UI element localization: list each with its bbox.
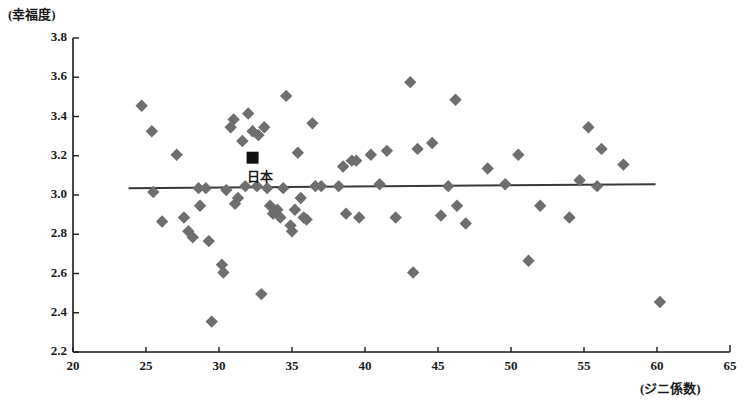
- data-point-marker: [534, 200, 546, 212]
- data-point-marker: [206, 315, 218, 327]
- data-point-marker: [306, 117, 318, 129]
- data-point-marker: [373, 178, 385, 190]
- y-tick-label: 2.6: [25, 265, 67, 281]
- data-point-marker: [435, 209, 447, 221]
- x-tick-label: 50: [491, 358, 531, 374]
- data-point-marker: [255, 288, 267, 300]
- y-tick-label: 2.4: [25, 304, 67, 320]
- data-point-marker: [295, 192, 307, 204]
- data-point-marker: [170, 149, 182, 161]
- data-point-marker: [220, 184, 232, 196]
- highlight-marker-japan: [247, 152, 259, 164]
- data-point-marker: [203, 235, 215, 247]
- annotation-marker: [247, 152, 259, 164]
- data-point-marker: [242, 107, 254, 119]
- y-tick-label: 3.0: [25, 186, 67, 202]
- x-tick-label: 35: [272, 358, 312, 374]
- x-tick-label: 60: [637, 358, 677, 374]
- data-point-marker: [135, 100, 147, 112]
- data-points: [135, 76, 666, 328]
- y-tick-label: 2.2: [25, 343, 67, 359]
- data-point-marker: [449, 94, 461, 106]
- data-point-marker: [499, 178, 511, 190]
- data-point-marker: [411, 143, 423, 155]
- data-point-marker: [389, 211, 401, 223]
- data-point-marker: [289, 204, 301, 216]
- data-point-marker: [654, 296, 666, 308]
- data-point-marker: [156, 215, 168, 227]
- y-tick-label: 2.8: [25, 225, 67, 241]
- data-point-marker: [194, 200, 206, 212]
- data-point-marker: [522, 255, 534, 267]
- x-tick-label: 45: [418, 358, 458, 374]
- data-point-marker: [481, 162, 493, 174]
- data-point-marker: [595, 143, 607, 155]
- data-point-marker: [365, 149, 377, 161]
- data-point-marker: [236, 135, 248, 147]
- data-point-marker: [146, 125, 158, 137]
- data-point-marker: [451, 200, 463, 212]
- x-tick-label: 55: [564, 358, 604, 374]
- x-tick-label: 65: [710, 358, 746, 374]
- data-point-marker: [200, 182, 212, 194]
- data-point-marker: [617, 158, 629, 170]
- plot-area: [0, 0, 746, 403]
- annotation-label-japan: 日本: [247, 166, 273, 185]
- data-point-marker: [460, 217, 472, 229]
- x-tick-label: 30: [199, 358, 239, 374]
- y-tick-label: 3.8: [25, 29, 67, 45]
- data-point-marker: [340, 207, 352, 219]
- data-point-marker: [442, 180, 454, 192]
- data-point-marker: [381, 145, 393, 157]
- data-point-marker: [333, 180, 345, 192]
- axes: [73, 38, 730, 352]
- y-tick-label: 3.2: [25, 147, 67, 163]
- y-tick-label: 3.4: [25, 108, 67, 124]
- data-point-marker: [563, 211, 575, 223]
- x-tick-label: 40: [345, 358, 385, 374]
- data-point-marker: [512, 149, 524, 161]
- y-tick-label: 3.6: [25, 68, 67, 84]
- data-point-marker: [404, 76, 416, 88]
- data-point-marker: [353, 211, 365, 223]
- data-point-marker: [292, 147, 304, 159]
- data-point-marker: [426, 137, 438, 149]
- data-point-marker: [178, 211, 190, 223]
- x-tick-label: 20: [53, 358, 93, 374]
- data-point-marker: [407, 266, 419, 278]
- data-point-marker: [217, 266, 229, 278]
- x-tick-label: 25: [126, 358, 166, 374]
- data-point-marker: [591, 180, 603, 192]
- data-point-marker: [582, 121, 594, 133]
- data-point-marker: [277, 182, 289, 194]
- scatter-chart: (幸福度) (ジニ係数) 202530354045505560652.22.42…: [0, 0, 746, 403]
- data-point-marker: [280, 90, 292, 102]
